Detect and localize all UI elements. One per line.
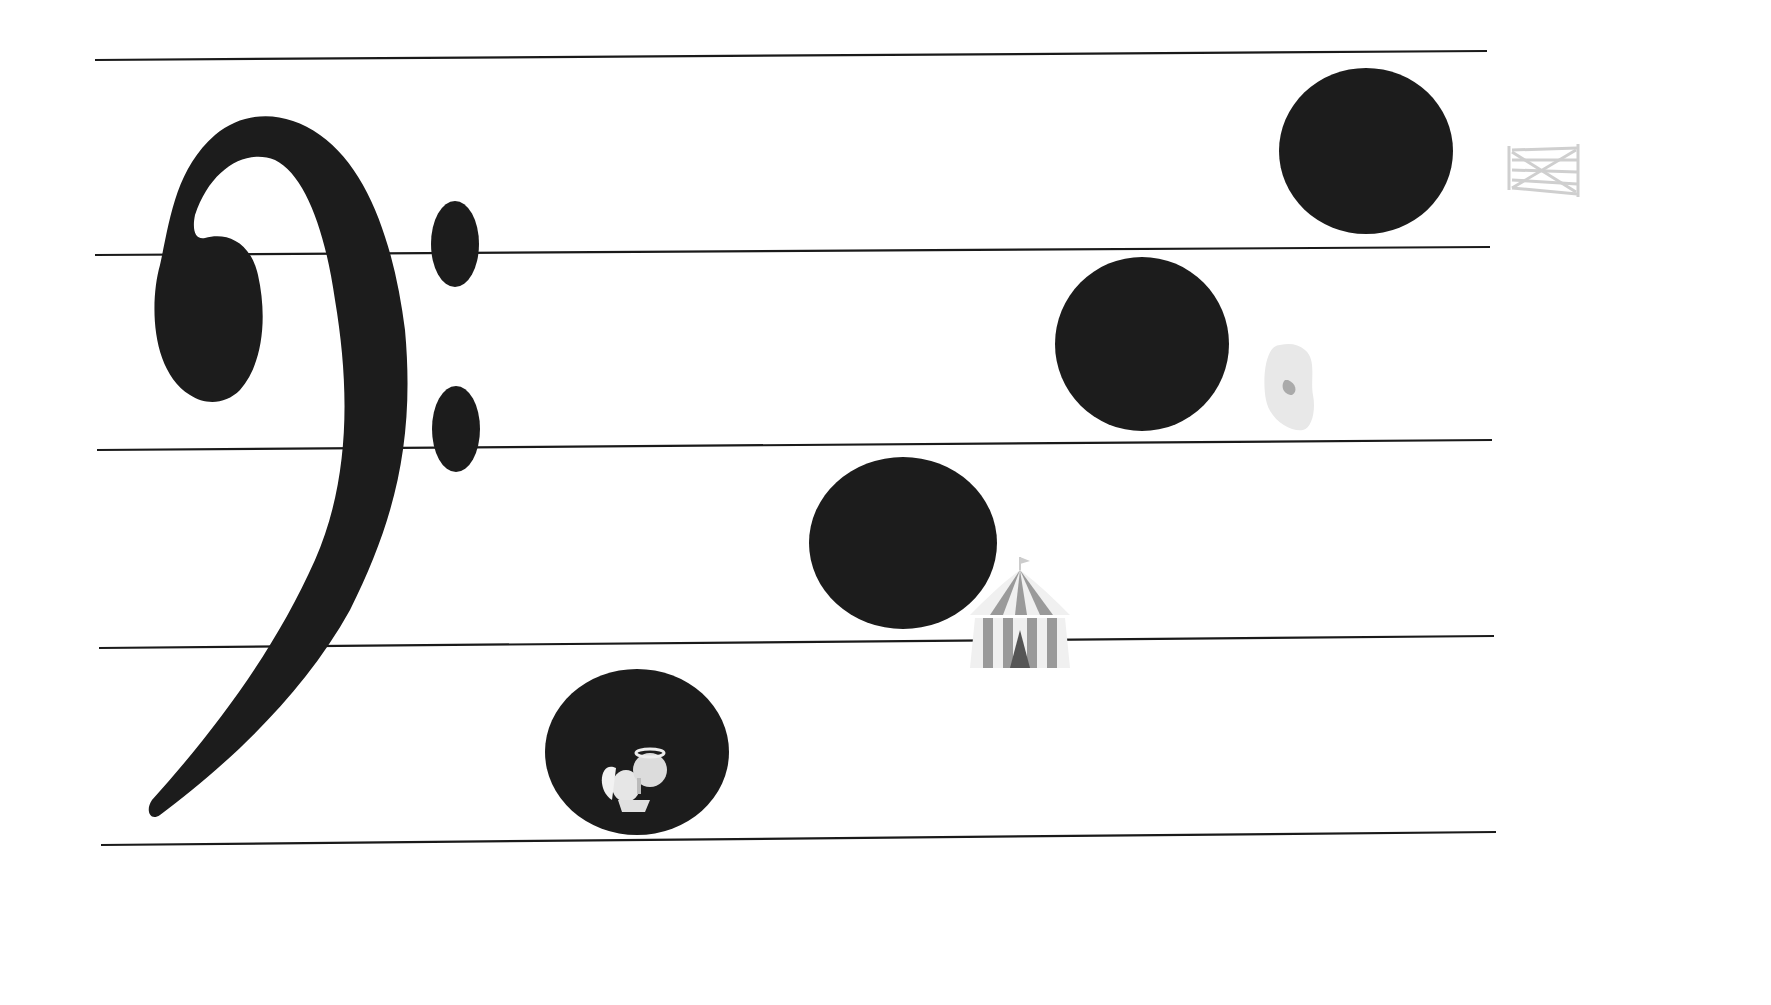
staff-line-3	[97, 440, 1492, 450]
bass-clef-icon	[149, 116, 480, 817]
note-ear	[1055, 257, 1314, 431]
bass-clef-staff-diagram	[0, 0, 1771, 1005]
note-circus-tent	[809, 457, 1070, 668]
note-gate	[1279, 68, 1578, 234]
clef-dot-lower	[432, 386, 480, 472]
ear-icon	[1264, 344, 1314, 430]
staff-line-5	[101, 832, 1496, 845]
clef-dot-upper	[431, 201, 479, 287]
staff-line-1	[95, 51, 1487, 60]
staff-line-2	[95, 247, 1490, 255]
gate-icon	[1509, 144, 1578, 197]
note-angel	[545, 669, 729, 835]
